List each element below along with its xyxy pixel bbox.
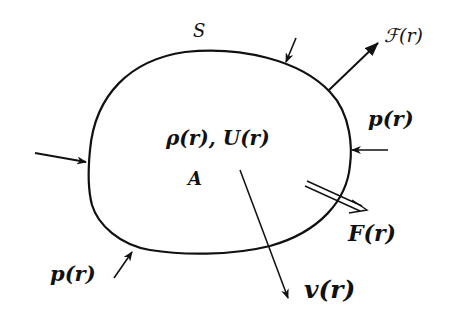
pressure-arrow-bottom-left — [114, 252, 132, 278]
pressure-arrow-top — [286, 38, 296, 62]
surface-label: S — [193, 22, 205, 40]
body-force-label: F(r) — [348, 222, 396, 244]
velocity-arrow — [240, 170, 288, 298]
density-energy-label: ρ(r), U(r) — [166, 128, 270, 148]
velocity-label: v(r) — [304, 277, 355, 302]
pressure-bottom-left-label: p(r) — [50, 263, 96, 284]
pressure-right-label: p(r) — [368, 108, 414, 129]
region-label: A — [188, 170, 202, 188]
body-force-double-arrow — [305, 181, 367, 213]
pressure-arrow-left — [35, 153, 86, 162]
surface-force-arrow — [329, 43, 378, 90]
surface-force-label: ℱ(r) — [384, 26, 423, 45]
surface-boundary — [89, 51, 351, 254]
